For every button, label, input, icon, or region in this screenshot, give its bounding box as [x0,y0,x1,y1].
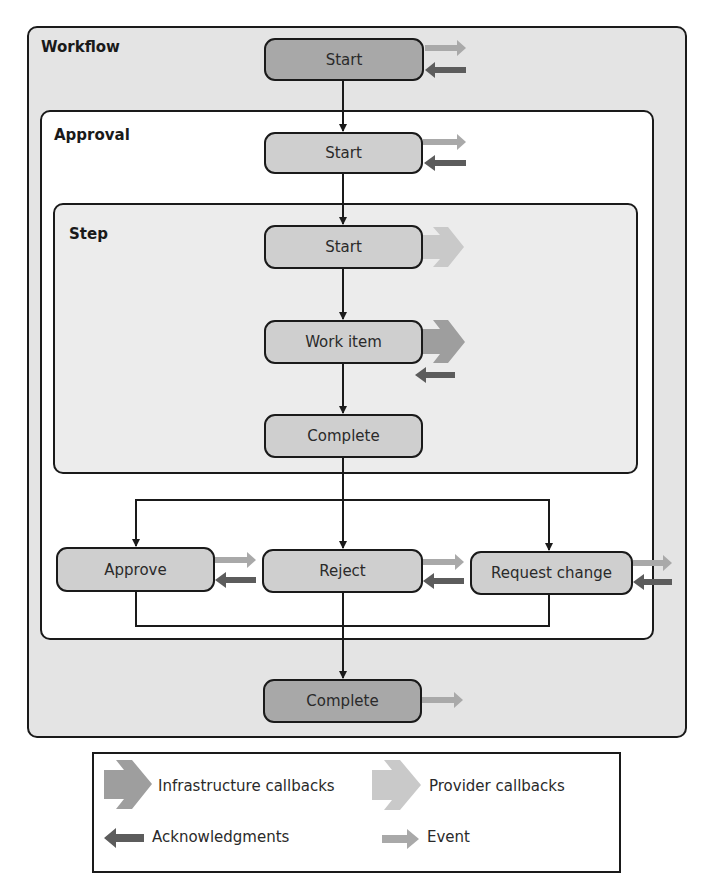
approve-node[interactable]: Approve [56,547,215,592]
workflow-title: Workflow [41,38,120,56]
legend-infrastructure-callbacks: Infrastructure callbacks [158,777,335,795]
step-title: Step [69,225,108,243]
workflow-complete-node[interactable]: Complete [263,679,422,723]
step-complete-node[interactable]: Complete [264,414,423,458]
approval-start-label: Start [325,144,362,162]
acknowledgments-icon [104,828,144,848]
approval-start-node[interactable]: Start [264,132,423,174]
infrastructure-callbacks-icon [104,760,152,809]
request-change-node[interactable]: Request change [470,551,633,595]
legend: Infrastructure callbacks Provider callba… [92,752,621,873]
step-start-label: Start [325,238,362,256]
legend-icons [94,754,623,875]
workflow-complete-label: Complete [306,692,378,710]
reject-node[interactable]: Reject [262,549,423,593]
step-start-node[interactable]: Start [264,225,423,269]
approval-title: Approval [54,126,130,144]
workflow-start-node[interactable]: Start [264,38,424,81]
approve-label: Approve [104,561,166,579]
work-item-node[interactable]: Work item [264,320,423,364]
legend-event: Event [427,828,470,846]
work-item-label: Work item [305,333,382,351]
legend-acknowledgments: Acknowledgments [152,828,289,846]
legend-provider-callbacks: Provider callbacks [429,777,565,795]
workflow-diagram: Workflow Approval Step [0,0,705,892]
workflow-start-label: Start [326,51,363,69]
reject-label: Reject [319,562,366,580]
event-icon [382,829,419,849]
step-complete-label: Complete [307,427,379,445]
provider-callbacks-icon [372,760,421,810]
request-change-label: Request change [491,564,612,582]
